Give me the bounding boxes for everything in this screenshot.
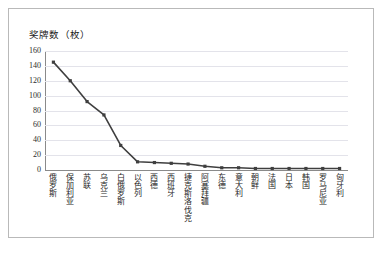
series-polyline (53, 62, 339, 168)
y-tick-120: 120 (29, 77, 41, 85)
x-tick-label: 朝鲜 (251, 174, 260, 190)
data-point-乌克兰 (102, 113, 105, 116)
data-point-日本 (287, 167, 290, 170)
data-point-罗马尼亚 (321, 167, 324, 170)
data-point-苏联 (85, 100, 88, 103)
y-tick-40: 40 (33, 136, 41, 144)
x-tick-label: 西班牙 (167, 174, 176, 198)
x-tick-label: 日本 (285, 174, 294, 190)
x-tick-label: 俄罗斯 (49, 174, 58, 198)
y-tick-80: 80 (33, 107, 41, 115)
y-tick-100: 100 (29, 92, 41, 100)
x-tick-label: 西德 (150, 174, 159, 190)
data-point-法国 (271, 167, 274, 170)
x-tick-label: 以色列 (133, 174, 142, 198)
y-tick-20: 20 (33, 151, 41, 159)
plot-area: 020406080100120140160 俄罗斯保加利亚苏联乌克兰白俄罗斯以色… (45, 51, 348, 170)
data-point-朝鲜 (254, 167, 257, 170)
x-tick-label: 法国 (268, 174, 277, 190)
data-point-东德 (220, 166, 223, 169)
gridline-0 (45, 170, 348, 171)
chart-figure: 奖牌数（枚） 020406080100120140160 俄罗斯保加利亚苏联乌克… (8, 8, 374, 238)
data-point-保加利亚 (69, 79, 72, 82)
series-line-medals (45, 51, 348, 170)
x-tick-label: 阿塞拜疆 (200, 174, 209, 207)
data-point-西德 (153, 161, 156, 164)
y-tick-140: 140 (29, 62, 41, 70)
x-tick-label: 苏联 (83, 174, 92, 190)
axis-title: 奖牌数（枚） (29, 27, 90, 41)
data-point-白俄罗斯 (119, 144, 122, 147)
x-tick-label: 东德 (217, 174, 226, 190)
data-point-阿塞拜疆 (203, 165, 206, 168)
data-point-匈牙利 (338, 167, 341, 170)
x-tick-label: 韩国 (301, 174, 310, 190)
y-tick-160: 160 (29, 47, 41, 55)
data-point-捷克斯洛伐克 (186, 162, 189, 165)
x-tick-label: 意大利 (234, 174, 243, 198)
x-tick-label: 保加利亚 (66, 174, 75, 207)
x-tick-label: 匈牙利 (335, 174, 344, 198)
data-point-韩国 (304, 167, 307, 170)
x-tick-label: 白俄罗斯 (116, 174, 125, 207)
y-tick-60: 60 (33, 121, 41, 129)
data-point-俄罗斯 (52, 61, 55, 64)
x-tick-label: 捷克斯洛伐克 (184, 174, 193, 223)
data-point-西班牙 (170, 162, 173, 165)
x-tick-label: 罗马尼亚 (318, 174, 327, 207)
data-point-以色列 (136, 160, 139, 163)
data-point-意大利 (237, 166, 240, 169)
x-tick-label: 乌克兰 (99, 174, 108, 198)
y-tick-0: 0 (37, 166, 41, 174)
